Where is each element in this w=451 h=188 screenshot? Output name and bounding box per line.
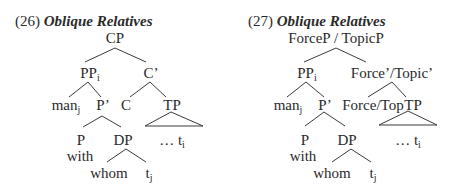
- node-man-j: manj: [274, 98, 303, 113]
- node-c-bar: C’: [144, 66, 159, 81]
- trace-j: tj: [370, 166, 377, 181]
- word-with: with: [67, 149, 94, 164]
- word: man: [52, 97, 78, 113]
- index-subscript: j: [374, 172, 377, 183]
- index-subscript: i: [418, 139, 421, 150]
- word-with: with: [290, 149, 317, 164]
- ellipsis-trace: … t: [395, 132, 418, 148]
- node-pp-i: PPi: [297, 66, 316, 81]
- tp-content-trace-i: … ti: [159, 133, 185, 148]
- tp-content-trace-i: … ti: [395, 133, 421, 148]
- node-force-bar-topic-bar: Force’/Topic’: [351, 66, 433, 81]
- node-force-top: Force/Top: [342, 98, 403, 113]
- node-p: P: [301, 133, 309, 148]
- figure-title: Oblique Relatives: [277, 13, 386, 29]
- node-forcep-topicp: ForceP / TopicP: [288, 31, 384, 46]
- figure-number: (27): [248, 13, 273, 29]
- node-c: C: [121, 98, 131, 113]
- index-subscript: j: [78, 104, 81, 115]
- node-tp: TP: [404, 98, 422, 113]
- node-pp-i: PPi: [80, 66, 99, 81]
- index-subscript: i: [182, 139, 185, 150]
- index-subscript: j: [150, 172, 153, 183]
- index-subscript: i: [314, 72, 317, 83]
- node-tp: TP: [163, 98, 181, 113]
- node-label: PP: [80, 65, 97, 81]
- trace-j: tj: [146, 166, 153, 181]
- node-dp: DP: [113, 133, 132, 148]
- index-subscript: j: [300, 104, 303, 115]
- node-man-j: manj: [52, 98, 81, 113]
- node-p-bar: P’: [96, 98, 109, 113]
- figure-number: (26): [15, 13, 40, 29]
- node-p: P: [77, 133, 85, 148]
- node-cp: CP: [106, 31, 124, 46]
- figure-26-title: (26) Oblique Relatives: [15, 14, 153, 29]
- node-label: PP: [297, 65, 314, 81]
- node-p-bar: P’: [318, 98, 331, 113]
- word-whom: whom: [90, 166, 128, 181]
- word-whom: whom: [313, 166, 351, 181]
- figure-title: Oblique Relatives: [44, 13, 153, 29]
- ellipsis-trace: … t: [159, 132, 182, 148]
- index-subscript: i: [97, 72, 100, 83]
- word: man: [274, 97, 300, 113]
- node-dp: DP: [337, 133, 356, 148]
- figure-27-title: (27) Oblique Relatives: [248, 14, 386, 29]
